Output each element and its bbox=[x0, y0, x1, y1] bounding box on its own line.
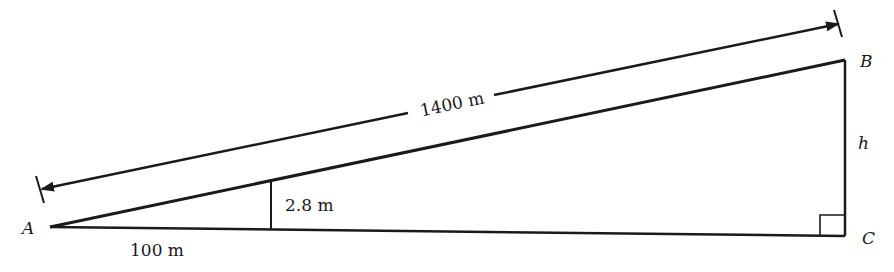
hypotenuse-ab bbox=[50, 60, 845, 227]
small-base-label: 100 m bbox=[130, 240, 184, 260]
vertex-b-label: B bbox=[859, 51, 873, 71]
hypotenuse-dimension: 1400 m bbox=[36, 10, 842, 203]
dimension-arrow-right bbox=[494, 24, 838, 95]
hypotenuse-length-label: 1400 m bbox=[418, 88, 486, 121]
height-h-label: h bbox=[858, 133, 869, 153]
base-ac bbox=[50, 227, 845, 236]
right-angle-marker bbox=[820, 215, 845, 236]
small-height-label: 2.8 m bbox=[285, 195, 334, 215]
dimension-arrow-left bbox=[42, 113, 408, 189]
vertex-a-label: A bbox=[20, 218, 34, 238]
slope-diagram: 1400 m A B C h 2.8 m 100 m bbox=[0, 0, 894, 272]
vertex-c-label: C bbox=[862, 228, 875, 248]
triangle bbox=[50, 60, 845, 236]
